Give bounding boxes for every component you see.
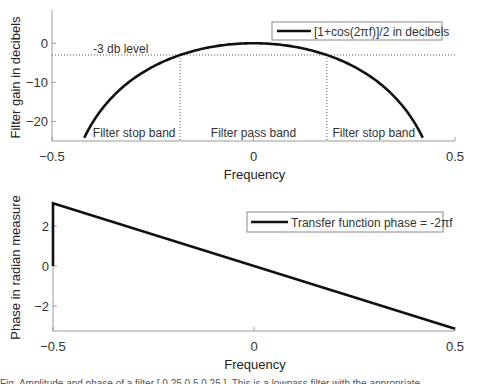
gain-ytick-label: 0 — [41, 36, 48, 51]
minus-3db-label: -3 db level — [93, 42, 148, 56]
gain-ytick-label: −20 — [26, 114, 48, 129]
gain-chart: 0−10−20 −0.500.5 -3 db level Filter stop… — [8, 10, 464, 182]
gain-y-axis-label: Filter gain in decibels — [8, 16, 23, 139]
figure-caption: Fig. Amplitude and phase of a filter [ 0… — [0, 377, 480, 384]
phase-chart: 20−2 −0.500.5 Frequency Phase in radian … — [8, 195, 464, 372]
phase-legend-label: Transfer function phase = -2πf — [291, 216, 453, 230]
gain-legend-label: [1+cos(2πf)]/2 in decibels — [314, 25, 449, 39]
phase-xtick-label: −0.5 — [40, 339, 66, 354]
phase-ytick-label: −2 — [34, 299, 49, 314]
phase-xtick-label: 0.5 — [446, 339, 464, 354]
phase-y-axis-label: Phase in radian measure — [8, 195, 23, 340]
gain-xtick-label: −0.5 — [39, 149, 65, 164]
gain-x-axis-label: Frequency — [224, 167, 286, 182]
phase-xtick-label: 0 — [250, 339, 257, 354]
phase-legend: Transfer function phase = -2πf — [247, 212, 453, 232]
figure: 0−10−20 −0.500.5 -3 db level Filter stop… — [0, 0, 480, 384]
gain-legend: [1+cos(2πf)]/2 in decibels — [272, 22, 449, 40]
gain-curve — [84, 43, 423, 138]
gain-xtick-label: 0 — [250, 149, 257, 164]
phase-ytick-label: 0 — [42, 259, 49, 274]
phase-ytick-label: 2 — [42, 219, 49, 234]
band-label-pass: Filter pass band — [211, 126, 296, 140]
gain-ytick-label: −10 — [26, 75, 48, 90]
band-label-stop-right: Filter stop band — [332, 126, 415, 140]
gain-xtick-label: 0.5 — [446, 149, 464, 164]
band-label-stop-left: Filter stop band — [93, 126, 176, 140]
phase-x-axis-label: Frequency — [224, 357, 286, 372]
